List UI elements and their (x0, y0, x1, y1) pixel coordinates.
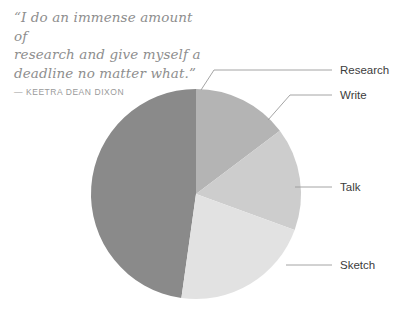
pie-chart-figure: “I do an immense amount of research and … (0, 0, 406, 322)
pie-slice-research[interactable] (91, 89, 196, 298)
pie-slices (91, 89, 301, 299)
leader-line-write (268, 95, 332, 120)
pie-label-research: Research (340, 64, 389, 76)
pie-svg (0, 0, 406, 322)
pie-label-talk: Talk (340, 181, 360, 193)
pie-label-write: Write (340, 89, 367, 101)
leader-line-research (201, 70, 332, 90)
pie-label-sketch: Sketch (340, 259, 375, 271)
